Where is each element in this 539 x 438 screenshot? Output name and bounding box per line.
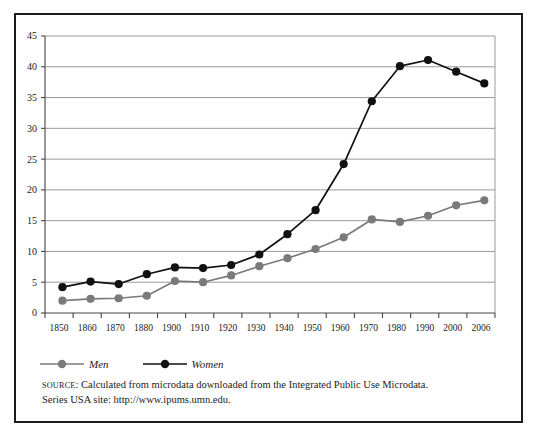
data-point-women xyxy=(452,68,460,76)
y-axis-tick-label: 20 xyxy=(27,184,37,195)
x-axis-tick-label: 1860 xyxy=(78,323,97,333)
x-axis-tick-label: 1850 xyxy=(50,323,69,333)
data-point-men xyxy=(86,295,94,303)
data-point-women xyxy=(199,264,207,272)
gridlines xyxy=(45,36,495,313)
legend-label-men: Men xyxy=(89,358,109,370)
x-axis-tick-label: 1990 xyxy=(415,323,434,333)
x-axis-tick-label: 1950 xyxy=(303,323,322,333)
x-axis-tick-label: 1900 xyxy=(162,323,181,333)
x-axis-tick-label: 1910 xyxy=(190,323,209,333)
legend-label-women: Women xyxy=(192,358,224,370)
data-point-men xyxy=(143,292,151,300)
data-point-women xyxy=(171,263,179,271)
series-line-men xyxy=(62,200,484,300)
legend-marker-men xyxy=(40,357,84,371)
x-axis-tick-label: 1870 xyxy=(106,323,125,333)
source-text-1: : Calculated from microdata downloaded f… xyxy=(76,379,429,390)
legend-item-men: Men xyxy=(40,357,109,371)
source-prefix: SOURCE xyxy=(42,381,76,390)
x-axis-tick-label: 1880 xyxy=(134,323,153,333)
y-axis-tick-label: 40 xyxy=(27,61,37,72)
x-axis-tick-label: 1940 xyxy=(275,323,294,333)
y-axis-tick-label: 5 xyxy=(32,277,37,288)
data-point-men xyxy=(255,262,263,270)
chart-legend: Men Women xyxy=(40,353,480,375)
source-note: SOURCE: Calculated from microdata downlo… xyxy=(42,378,492,406)
y-axis-tick-label: 10 xyxy=(27,246,37,257)
source-line-2: Series USA site: http://www.ipums.umn.ed… xyxy=(42,393,492,407)
x-axis-tick-label: 1920 xyxy=(218,323,237,333)
data-point-women xyxy=(311,206,319,214)
x-axis-tick-label: 1980 xyxy=(387,323,406,333)
data-point-men xyxy=(396,218,404,226)
data-point-men xyxy=(480,196,488,204)
y-axis-tick-label: 45 xyxy=(27,30,37,41)
y-axis-tick-label: 0 xyxy=(32,307,37,318)
data-point-women xyxy=(255,250,263,258)
data-point-women xyxy=(396,62,404,70)
source-line-1: SOURCE: Calculated from microdata downlo… xyxy=(42,378,492,393)
data-point-men xyxy=(368,215,376,223)
legend-item-women: Women xyxy=(143,357,224,371)
x-axis-tick-label: 1960 xyxy=(331,323,350,333)
data-point-men xyxy=(58,297,66,305)
data-point-women xyxy=(227,261,235,269)
data-series-group xyxy=(58,56,488,305)
x-axis-tick-label: 2006 xyxy=(471,323,490,333)
y-axis: 051015202530354045 xyxy=(27,30,45,318)
y-axis-tick-label: 15 xyxy=(27,215,37,226)
x-axis-tick-label: 2000 xyxy=(443,323,462,333)
x-axis: 1850186018701880190019101920193019401950… xyxy=(45,313,495,333)
data-point-men xyxy=(311,245,319,253)
data-point-women xyxy=(340,160,348,168)
legend-marker-women xyxy=(143,357,187,371)
data-point-women xyxy=(143,270,151,278)
data-point-men xyxy=(227,271,235,279)
data-point-men xyxy=(199,278,207,286)
data-point-men xyxy=(115,294,123,302)
y-axis-tick-label: 25 xyxy=(27,154,37,165)
figure-root: 051015202530354045 185018601870188019001… xyxy=(0,0,539,438)
data-point-men xyxy=(171,277,179,285)
data-point-women xyxy=(115,280,123,288)
data-point-women xyxy=(283,230,291,238)
chart-canvas: 051015202530354045 185018601870188019001… xyxy=(0,0,539,348)
line-chart: 051015202530354045 185018601870188019001… xyxy=(0,0,539,348)
data-point-men xyxy=(340,233,348,241)
data-point-women xyxy=(368,97,376,105)
data-point-men xyxy=(283,254,291,262)
data-point-women xyxy=(58,283,66,291)
y-axis-tick-label: 35 xyxy=(27,92,37,103)
x-axis-tick-label: 1930 xyxy=(246,323,265,333)
data-point-men xyxy=(424,212,432,220)
series-line-women xyxy=(62,60,484,287)
data-point-women xyxy=(424,56,432,64)
data-point-women xyxy=(480,79,488,87)
data-point-women xyxy=(86,278,94,286)
y-axis-tick-label: 30 xyxy=(27,123,37,134)
data-point-men xyxy=(452,201,460,209)
x-axis-tick-label: 1970 xyxy=(359,323,378,333)
